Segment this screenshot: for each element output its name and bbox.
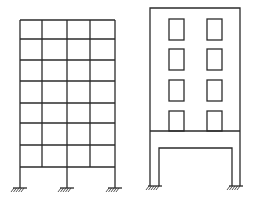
fixed-support-icon bbox=[146, 186, 162, 190]
window-opening bbox=[169, 80, 184, 101]
window-opening bbox=[169, 19, 184, 40]
window-opening bbox=[207, 80, 222, 101]
window-opening bbox=[207, 111, 222, 131]
rigid-frame-grid bbox=[11, 20, 122, 192]
structural-diagram bbox=[0, 0, 254, 204]
portal-opening bbox=[159, 148, 232, 186]
fixed-support-icon bbox=[106, 188, 122, 192]
window-opening bbox=[169, 49, 184, 70]
window-opening bbox=[207, 49, 222, 70]
building-on-portal-frame bbox=[146, 8, 243, 190]
building-outline bbox=[150, 8, 240, 186]
fixed-support-icon bbox=[58, 188, 74, 192]
fixed-support-icon bbox=[227, 186, 243, 190]
window-opening bbox=[169, 111, 184, 131]
fixed-support-icon bbox=[11, 188, 27, 192]
window-opening bbox=[207, 19, 222, 40]
